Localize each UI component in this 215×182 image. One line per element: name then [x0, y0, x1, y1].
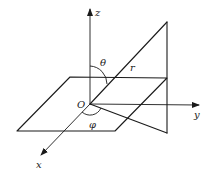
phi-label: φ: [89, 119, 96, 130]
theta-label: θ: [100, 57, 106, 68]
z-axis-label: z: [94, 7, 101, 18]
projection-line: [90, 104, 167, 133]
radius-label: r: [130, 62, 136, 73]
x-axis-label: x: [36, 159, 42, 170]
x-axis: [41, 104, 90, 155]
y-axis: [90, 104, 199, 105]
origin-label: O: [77, 99, 85, 110]
theta-arc: [90, 66, 107, 84]
spherical-coordinates-diagram: z y x O θ φ r: [0, 0, 215, 182]
y-axis-label: y: [193, 109, 200, 120]
